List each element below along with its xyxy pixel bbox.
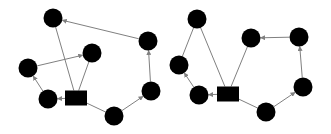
circle-node-L_G (142, 82, 161, 101)
circle-node-R_D (242, 29, 261, 48)
edge-L_E-L_D (33, 76, 43, 91)
edge-R_R-R_G (239, 99, 257, 108)
circle-node-R_G (257, 103, 276, 122)
edge-L_A-L_R (56, 27, 74, 90)
circle-node-L_D (19, 59, 38, 78)
edge-L_G-L_B (149, 50, 151, 81)
circle-node-R_B (170, 56, 189, 75)
edge-R_A-R_R (201, 28, 225, 87)
nodes-layer (19, 9, 313, 126)
rect-node-R_R (217, 87, 239, 102)
edge-L_B-L_A (62, 20, 139, 39)
edge-L_F-L_G (122, 96, 143, 110)
circle-node-R_C (190, 86, 209, 105)
edge-L_D-L_C (37, 55, 83, 66)
circle-node-R_E (290, 28, 309, 47)
edge-R_E-R_D (260, 37, 289, 38)
circle-node-R_F (294, 78, 313, 97)
graph-diagram-canvas (0, 0, 331, 134)
edge-R_G-R_F (274, 92, 295, 106)
edge-L_R-L_F (87, 103, 105, 112)
rect-node-L_R (65, 91, 87, 106)
circle-node-L_C (83, 44, 102, 63)
edge-R_D-R_R (231, 47, 247, 87)
circle-node-L_B (139, 32, 158, 51)
circle-node-L_F (105, 107, 124, 126)
edge-R_B-R_A (182, 28, 193, 56)
edge-R_C-R_B (184, 73, 193, 87)
circle-node-L_A (44, 9, 63, 28)
circle-node-L_E (39, 90, 58, 109)
circle-node-R_A (188, 10, 207, 29)
edge-L_C-L_R (79, 62, 89, 91)
edge-R_F-R_E (300, 46, 302, 77)
